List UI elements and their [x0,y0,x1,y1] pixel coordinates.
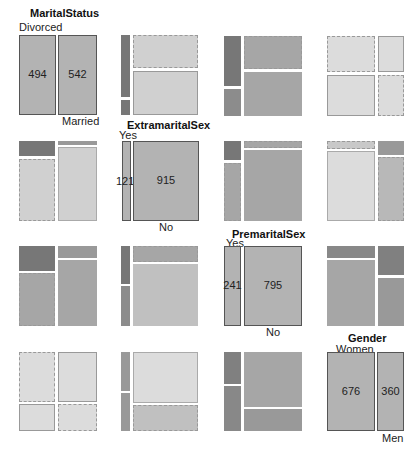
ms-tile-married: 542 [58,35,97,115]
tile [327,141,375,149]
tile [121,100,130,115]
tile [244,141,302,148]
es-tile-no: 915 [133,141,199,221]
tile [224,36,241,86]
tile [244,352,302,407]
tile [121,246,130,284]
ps-level-no: No [266,326,280,338]
tile [224,386,241,431]
g-level-men: Men [382,432,403,444]
tile [121,286,130,326]
tile [133,71,198,115]
tile [58,404,97,431]
tile [244,150,302,221]
ps-tile-no: 795 [244,246,302,326]
tile [58,141,97,145]
tile [224,163,241,221]
tile [327,260,375,326]
es-count-yes: 121 [116,175,134,187]
tile [378,246,404,275]
tile [19,404,55,431]
tile [58,147,97,221]
tile [19,246,55,271]
tile [224,352,241,384]
tile [19,273,55,326]
tile [19,352,55,402]
tile [378,278,404,326]
tile [224,89,241,116]
tile [327,246,375,258]
tile [133,246,198,262]
tile [58,352,97,402]
tile [133,35,198,68]
g-tile-women: 676 [327,352,375,431]
tile [378,75,404,116]
tile [19,141,55,156]
tile [327,36,375,72]
tile [327,75,375,116]
tile [58,246,97,258]
tile [244,36,302,69]
tile [121,352,130,391]
tile [133,352,198,403]
es-level-no: No [159,221,173,233]
tile [133,264,198,326]
ms-level-married: Married [62,115,99,127]
tile [378,157,404,221]
tile [58,260,97,326]
g-tile-men: 360 [377,352,404,431]
tile [133,405,198,431]
tile [244,72,302,116]
ps-tile-yes: 241 [224,246,241,326]
tile [244,409,302,431]
tile [378,36,404,72]
es-title: ExtramaritalSex [127,119,210,131]
tile [224,141,241,160]
ms-title: MaritalStatus [30,7,99,19]
ms-level-divorced: Divorced [19,21,62,33]
ms-tile-divorced: 494 [19,35,56,115]
tile [121,393,130,431]
tile [378,141,404,155]
tile [327,151,375,221]
tile [121,35,130,97]
es-level-yes: Yes [119,129,137,141]
tile [19,159,55,221]
